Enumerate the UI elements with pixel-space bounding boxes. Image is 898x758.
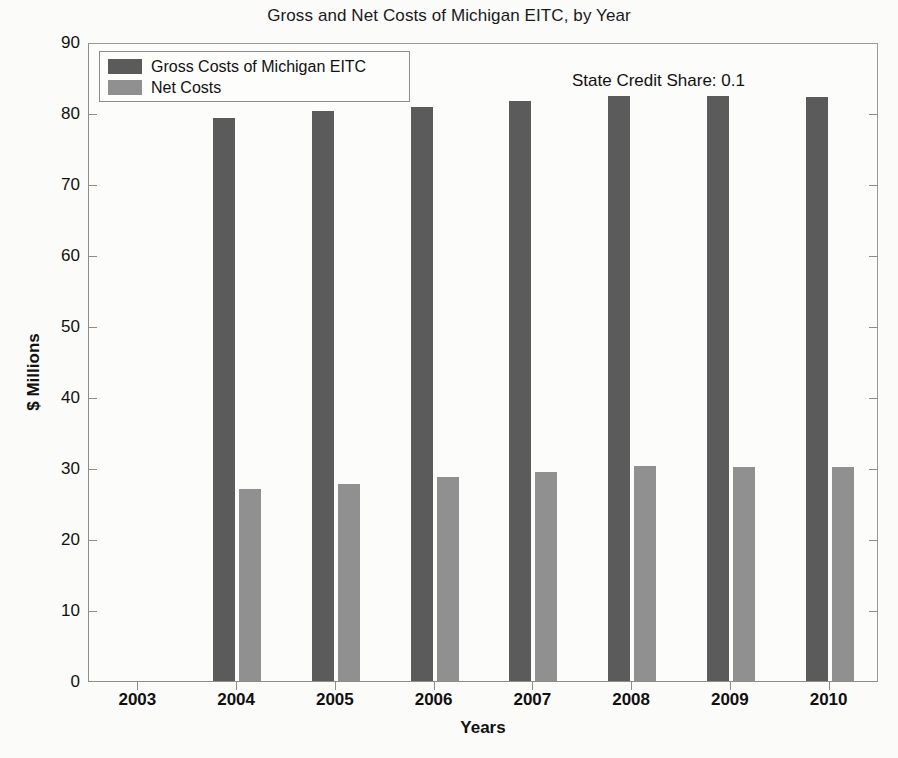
y-axis-tick-label: 30 [10,459,80,479]
x-axis-tick-mark [829,682,830,690]
x-axis-tick-mark [137,682,138,690]
bar-gross-2007 [509,101,531,681]
bar-net-2004 [239,489,261,681]
legend-entry-gross: Gross Costs of Michigan EITC [108,56,409,77]
plot-area [88,43,878,682]
legend-entry-net: Net Costs [108,77,409,98]
x-axis-tick-label: 2008 [586,690,676,710]
y-axis-tick-mark [869,256,878,257]
y-axis-tick-mark [88,256,97,257]
y-axis-tick-label: 20 [10,530,80,550]
x-axis-tick-mark [236,682,237,690]
y-axis-tick-mark [869,469,878,470]
legend-label-net: Net Costs [151,79,221,97]
x-axis-tick-mark [434,682,435,690]
bar-gross-2009 [707,96,729,681]
x-axis-tick-label: 2009 [685,690,775,710]
y-axis-tick-mark [869,540,878,541]
y-axis-tick-label: 40 [10,388,80,408]
legend-swatch-net-icon [108,80,142,95]
bar-net-2005 [338,484,360,681]
bar-gross-2006 [411,107,433,681]
chart-legend: Gross Costs of Michigan EITC Net Costs [99,51,410,102]
x-axis-tick-label: 2006 [389,690,479,710]
y-axis-tick-label: 60 [10,246,80,266]
y-axis-tick-mark [869,185,878,186]
y-axis-tick-mark [88,540,97,541]
y-axis-tick-mark [88,114,97,115]
y-axis-tick-mark [88,469,97,470]
chart-title: Gross and Net Costs of Michigan EITC, by… [0,6,898,26]
x-axis-tick-mark [532,682,533,690]
bar-net-2008 [634,466,656,681]
x-axis-tick-mark [335,682,336,690]
y-axis-tick-label: 50 [10,317,80,337]
x-axis-title: Years [88,718,878,738]
x-axis-tick-label: 2003 [92,690,182,710]
y-axis-tick-mark [869,398,878,399]
bar-net-2009 [733,467,755,681]
y-axis-tick-mark [88,611,97,612]
y-axis-tick-labels: 0102030405060708090 [0,0,80,758]
state-credit-share-annotation: State Credit Share: 0.1 [572,71,745,91]
x-axis-tick-label: 2005 [290,690,380,710]
bar-gross-2005 [312,111,334,681]
bar-gross-2008 [608,96,630,681]
y-axis-tick-label: 0 [10,672,80,692]
legend-label-gross: Gross Costs of Michigan EITC [151,58,366,76]
x-axis-tick-mark [730,682,731,690]
chart-figure: Gross and Net Costs of Michigan EITC, by… [0,0,898,758]
legend-swatch-gross-icon [108,59,142,74]
x-axis-tick-label: 2010 [784,690,874,710]
y-axis-tick-label: 70 [10,175,80,195]
y-axis-tick-mark [869,327,878,328]
y-axis-tick-mark [88,327,97,328]
x-axis-tick-label: 2004 [191,690,281,710]
y-axis-tick-mark [88,185,97,186]
y-axis-tick-mark [869,114,878,115]
bar-net-2010 [832,467,854,681]
y-axis-tick-mark [88,398,97,399]
y-axis-tick-label: 90 [10,33,80,53]
y-axis-tick-mark [869,611,878,612]
x-axis-tick-mark [631,682,632,690]
y-axis-tick-label: 10 [10,601,80,621]
y-axis-tick-label: 80 [10,104,80,124]
bar-net-2006 [437,477,459,681]
bars-layer [89,44,877,681]
bar-net-2007 [535,472,557,681]
x-axis-tick-label: 2007 [487,690,577,710]
bar-gross-2010 [806,97,828,681]
bar-gross-2004 [213,118,235,681]
